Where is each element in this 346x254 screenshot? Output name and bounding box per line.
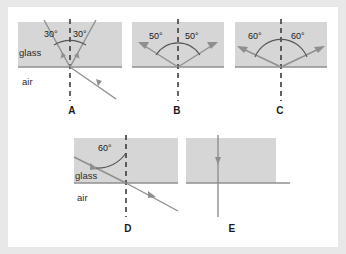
angle-label-b-right: 50° xyxy=(185,31,199,41)
glass-label-a: glass xyxy=(19,47,41,58)
glass-label-d: glass xyxy=(75,170,97,181)
panel-a: 30° 30° glass air xyxy=(18,19,122,105)
panel-label-c: C xyxy=(270,105,290,116)
angle-label-d: 60° xyxy=(98,143,112,153)
panel-b: 50° 50° xyxy=(132,19,224,105)
figure-frame: 30° 30° glass air A 50° 50° B xyxy=(8,7,338,247)
air-label-a: air xyxy=(22,76,33,87)
air-label-d: air xyxy=(77,192,88,203)
angle-label-a-left: 30° xyxy=(44,29,58,39)
panel-label-e: E xyxy=(222,223,242,234)
panel-label-d: D xyxy=(118,223,138,234)
panel-label-b: B xyxy=(167,105,187,116)
arrowhead-transmitted-d xyxy=(148,191,156,198)
angle-label-c-right: 60° xyxy=(291,31,305,41)
glass-block-e xyxy=(186,138,276,183)
ray-lower-right-a xyxy=(70,67,116,99)
angle-label-a-right: 30° xyxy=(73,29,87,39)
panel-d: 60° glass air xyxy=(74,135,178,221)
panel-label-a: A xyxy=(62,105,82,116)
angle-label-c-left: 60° xyxy=(248,31,262,41)
angle-label-b-left: 50° xyxy=(149,31,163,41)
panel-c: 60° 60° xyxy=(235,19,327,105)
panel-e xyxy=(186,135,290,221)
